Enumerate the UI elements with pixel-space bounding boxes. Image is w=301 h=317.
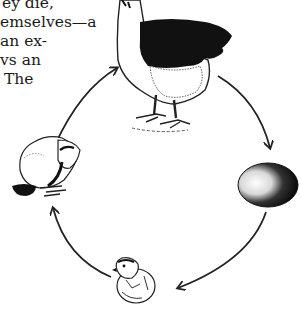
arrow-hatching-chick-to-chick [53,208,111,277]
hen-illustration [117,0,232,132]
hatching-chick-illustration [112,258,155,303]
egg-illustration [238,163,298,207]
arrow-egg-to-hatching-chick [178,212,266,288]
chick-illustration [12,137,80,196]
arrow-chick-to-hen [55,68,117,145]
arrow-hen-to-egg [218,76,270,148]
life-cycle-diagram: Hen Egg Hatching chick Chick [0,0,301,317]
